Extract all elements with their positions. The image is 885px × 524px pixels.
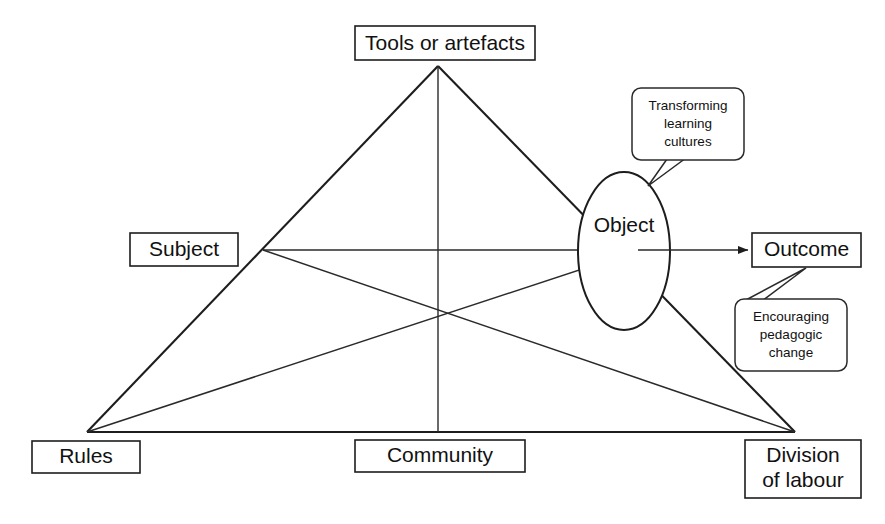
object-label: Object <box>594 213 655 236</box>
line-rules-object <box>87 250 640 432</box>
division-of-labour-label-line1: Division <box>766 443 840 466</box>
outcome-callout-line1: Encouraging <box>753 309 829 324</box>
object-callout-line1: Transforming <box>648 98 727 113</box>
division-of-labour-node[interactable]: Division of labour <box>745 440 861 498</box>
tools-label: Tools or artefacts <box>365 31 525 54</box>
outcome-node[interactable]: Outcome <box>752 233 861 267</box>
activity-system-diagram: Object Tools or artefacts Subject Outcom… <box>0 0 885 524</box>
outcome-callout-line3: change <box>769 345 813 360</box>
subject-node[interactable]: Subject <box>130 233 238 266</box>
object-callout-line2: learning <box>664 116 712 131</box>
tools-node[interactable]: Tools or artefacts <box>355 26 535 60</box>
object-callout[interactable]: Transforming learning cultures <box>632 88 744 186</box>
subject-label: Subject <box>149 237 219 260</box>
outcome-callout[interactable]: Encouraging pedagogic change <box>735 268 847 371</box>
community-label: Community <box>387 443 494 466</box>
outcome-callout-tail <box>744 268 806 301</box>
community-node[interactable]: Community <box>355 440 525 472</box>
outcome-label: Outcome <box>764 237 849 260</box>
object-node[interactable]: Object <box>578 172 670 330</box>
object-ellipse[interactable] <box>578 172 670 330</box>
object-callout-line3: cultures <box>664 134 712 149</box>
line-subject-division <box>263 250 795 432</box>
diagram-canvas: Object Tools or artefacts Subject Outcom… <box>0 0 885 524</box>
outcome-callout-line2: pedagogic <box>760 327 823 342</box>
division-of-labour-label-line2: of labour <box>762 468 844 491</box>
rules-node[interactable]: Rules <box>32 441 140 473</box>
rules-label: Rules <box>59 444 113 467</box>
